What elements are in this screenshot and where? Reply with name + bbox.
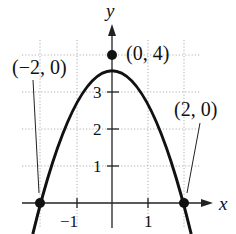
tick-label-x-neg1: −1 [60,212,78,231]
y-axis-label: y [104,0,115,21]
point-label-left: (−2, 0) [12,56,67,79]
parabola-graph: y x −1 1 3 2 1 (−2, 0) (0, 4) (2, 0) [0,0,236,234]
point-left-marker [35,198,45,208]
x-axis-label: x [218,193,228,214]
tick-label-y-3: 3 [93,83,102,102]
point-right-marker [179,198,189,208]
tick-label-x-1: 1 [144,212,153,231]
leader-line-right [187,123,200,193]
leader-line-left [33,80,39,193]
x-axis-arrow-icon [201,199,213,207]
point-top-marker [107,50,117,60]
y-axis-arrow-icon [108,24,116,36]
tick-label-y-1: 1 [93,157,102,176]
point-label-top: (0, 4) [126,42,169,65]
tick-label-y-2: 2 [93,120,102,139]
point-label-right: (2, 0) [174,98,217,121]
